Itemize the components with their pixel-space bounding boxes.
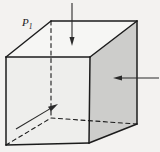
front-right-edge: [89, 57, 90, 143]
box-pressure-diagram: P1: [0, 0, 160, 152]
figure-container: P1: [0, 0, 160, 152]
front-face: [6, 57, 90, 145]
pressure-label-subscript: 1: [29, 22, 33, 31]
